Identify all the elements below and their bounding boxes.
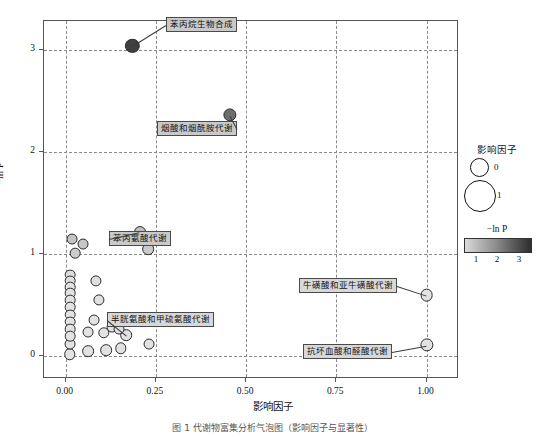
colorbar-tick-1: 1 — [469, 254, 483, 264]
gridline-horizontal — [44, 356, 457, 357]
legend-size-circle-large — [464, 180, 496, 212]
x-tick-label: 0.75 — [315, 386, 355, 396]
x-tick-label: 0.50 — [225, 386, 265, 396]
gridline-horizontal — [44, 254, 457, 255]
x-tickmark — [426, 378, 427, 382]
colorbar-tick-2: 2 — [490, 254, 504, 264]
x-tick-label: 0.25 — [135, 386, 175, 396]
x-tickmark — [335, 378, 336, 382]
data-point[interactable] — [83, 326, 94, 337]
legend: 影响因子 0 1 −ln P 1 2 3 — [462, 142, 545, 156]
point-annotation-label: 半胱氨酸和甲硫氨酸代谢 — [107, 312, 214, 327]
data-point[interactable] — [100, 345, 112, 357]
data-point[interactable] — [77, 239, 88, 250]
gridline-horizontal — [44, 50, 457, 51]
data-point[interactable] — [88, 314, 99, 325]
data-point[interactable] — [65, 331, 76, 342]
data-point[interactable] — [144, 339, 155, 350]
point-annotation-label: 抗坏血酸和醛酸代谢 — [303, 344, 392, 359]
y-tickmark — [39, 49, 43, 50]
y-tickmark — [39, 253, 43, 254]
legend-size-label-0: 0 — [494, 162, 499, 172]
colorbar — [464, 238, 532, 253]
data-point[interactable] — [67, 233, 78, 244]
legend-size-title: 影响因子 — [462, 142, 532, 156]
x-tickmark — [155, 378, 156, 382]
data-point[interactable] — [420, 339, 433, 352]
y-tickmark — [39, 355, 43, 356]
colorbar-tick-3: 3 — [512, 254, 526, 264]
y-tick-label: 3 — [15, 43, 35, 53]
data-point[interactable] — [115, 343, 126, 354]
x-tick-label: 1.00 — [406, 386, 446, 396]
gridline-horizontal — [44, 152, 457, 153]
colorbar-title: −ln P — [462, 224, 532, 234]
figure-container: 苯丙烷生物合成烟酸和烟酰胺代谢苯丙氨酸代谢半胱氨酸和甲硫氨酸代谢牛磺酸和亚牛磺酸… — [0, 0, 545, 437]
x-tickmark — [245, 378, 246, 382]
y-tickmark — [39, 151, 43, 152]
legend-size-label-1: 1 — [497, 190, 502, 200]
y-axis-title: −ln P — [0, 162, 5, 185]
point-annotation-label: 苯丙烷生物合成 — [166, 17, 237, 32]
y-tick-label: 0 — [15, 349, 35, 359]
y-tick-label: 2 — [15, 145, 35, 155]
data-point[interactable] — [83, 346, 95, 358]
legend-size-circle-small — [470, 158, 489, 177]
plot-area: 苯丙烷生物合成烟酸和烟酰胺代谢苯丙氨酸代谢半胱氨酸和甲硫氨酸代谢牛磺酸和亚牛磺酸… — [43, 20, 458, 378]
data-point[interactable] — [93, 295, 104, 306]
point-annotation-label: 烟酸和烟酰胺代谢 — [157, 121, 237, 136]
x-tick-label: 0.00 — [45, 386, 85, 396]
y-tick-label: 1 — [15, 247, 35, 257]
data-point[interactable] — [64, 349, 75, 360]
gridline-vertical — [246, 21, 247, 377]
annotation-leader-line — [132, 25, 166, 47]
figure-caption: 图 1 代谢物富集分析气泡图（影响因子与显著性） — [0, 421, 545, 434]
x-tickmark — [65, 378, 66, 382]
gridline-vertical — [336, 21, 337, 377]
data-point[interactable] — [70, 248, 81, 259]
x-axis-title: 影响因子 — [0, 398, 545, 413]
point-annotation-label: 苯丙氨酸代谢 — [109, 231, 171, 246]
data-point[interactable] — [91, 275, 102, 286]
gridline-vertical — [427, 21, 428, 377]
point-annotation-label: 牛磺酸和亚牛磺酸代谢 — [299, 278, 397, 293]
